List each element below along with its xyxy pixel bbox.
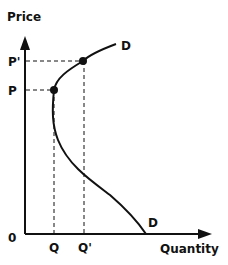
q-prime-label: Q' xyxy=(78,241,92,255)
p-label: P xyxy=(8,84,17,98)
demand-label-lower: D xyxy=(148,216,158,230)
demand-diagram: Price Quantity 0 P' P Q Q' D D xyxy=(0,0,228,265)
diagram-canvas: Price Quantity 0 P' P Q Q' D D xyxy=(0,0,228,265)
p-prime-label: P' xyxy=(8,55,20,69)
demand-label-upper: D xyxy=(121,39,131,53)
q-label: Q xyxy=(49,241,59,255)
demand-curve xyxy=(53,44,146,234)
quantity-axis-label: Quantity xyxy=(160,242,219,256)
price-axis-label: Price xyxy=(7,10,41,24)
quantity-axis-arrow-icon xyxy=(198,229,212,239)
point-q-prime-p-prime xyxy=(79,57,87,65)
price-axis-arrow-icon xyxy=(20,36,30,50)
point-q-p xyxy=(50,86,58,94)
origin-label: 0 xyxy=(8,231,16,245)
